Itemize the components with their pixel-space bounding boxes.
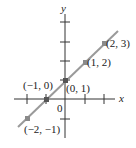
coordinate-plane: y x 0 (2, 3) (1, 2) (0, 1) (−1, 0) (−2, …	[0, 0, 136, 148]
point-neg1-0	[44, 97, 49, 102]
label-neg2-neg1: (−2, −1)	[24, 123, 61, 136]
label-1-2: (1, 2)	[87, 56, 111, 69]
origin-label: 0	[57, 102, 63, 114]
label-0-1: (0, 1)	[66, 82, 90, 95]
point-neg2-neg1	[25, 116, 30, 121]
label-2-3: (2, 3)	[106, 37, 130, 50]
x-axis-label: x	[118, 92, 124, 104]
label-neg1-0: (−1, 0)	[23, 79, 53, 92]
y-axis-label: y	[60, 2, 66, 14]
